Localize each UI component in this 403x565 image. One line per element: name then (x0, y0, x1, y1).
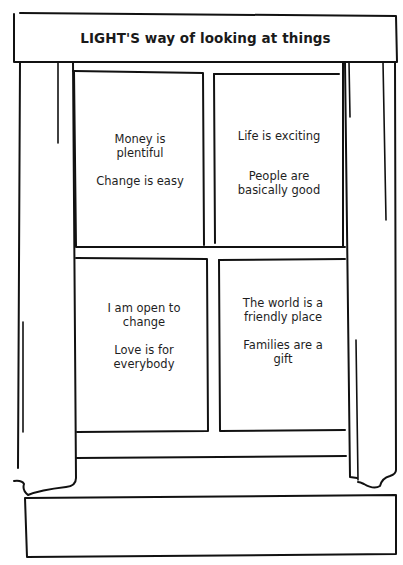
statement-line: Love is for (80, 343, 208, 357)
statement-line: Change is easy (78, 174, 202, 188)
statement-line: Life is exciting (215, 129, 343, 143)
pane-top-left: Money is plentiful Change is easy (78, 132, 202, 188)
pane-top-right: Life is exciting People are basically go… (215, 129, 343, 197)
statement-line: Families are a (220, 338, 346, 352)
statement-line: friendly place (220, 310, 346, 324)
pane-bottom-right: The world is a friendly place Families a… (220, 296, 346, 366)
pane-bottom-left: I am open to change Love is for everybod… (80, 301, 208, 371)
statement-line: The world is a (220, 296, 346, 310)
statement-line: gift (220, 352, 346, 366)
left-curtain (14, 62, 76, 495)
window-drawing (0, 0, 403, 565)
statement-line: basically good (215, 183, 343, 197)
statement-line: I am open to (80, 301, 208, 315)
statement-line: plentiful (78, 146, 202, 160)
statement-line: everybody (80, 357, 208, 371)
right-curtain (345, 62, 396, 488)
header-title: LIGHT'S way of looking at things (14, 13, 397, 62)
statement-line: change (80, 315, 208, 329)
statement-line: Money is (78, 132, 202, 146)
statement-line: People are (215, 169, 343, 183)
